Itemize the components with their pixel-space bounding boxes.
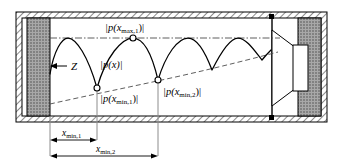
dim-2-arrow-right — [151, 154, 158, 159]
p-max-1-tail: )| — [139, 22, 145, 34]
marker-max-1 — [130, 35, 136, 41]
impedance-tube-figure: Z |p(xmax,1)| |p(x)| |p(xmin,1)| |p(xmin… — [0, 0, 343, 160]
svg-text:xmin,1: xmin,1 — [61, 128, 81, 139]
dim-1-arrow-right — [90, 138, 97, 143]
impedance-label: Z — [71, 60, 78, 72]
baffle-top-mount — [269, 14, 274, 19]
p-min-2-sub: min,2 — [179, 91, 196, 99]
dim-1-arrow-left — [50, 138, 57, 143]
dimension-x-min-1: xmin,1 — [50, 128, 97, 143]
marker-min-2 — [155, 77, 161, 83]
p-min-2-head: |p(x — [163, 86, 180, 98]
p-min-1-sub: min,1 — [116, 98, 133, 106]
dim-1-sub: min,1 — [66, 132, 81, 139]
dim-2-arrow-left — [50, 154, 57, 159]
dim-2-sub: min,2 — [100, 148, 115, 155]
marker-min-1 — [94, 85, 100, 91]
absorber-block — [27, 18, 50, 116]
baffle-bottom-mount — [269, 115, 274, 120]
label-p-of-x: |p(x)| — [100, 59, 123, 71]
p-max-1-head: |p(x — [105, 22, 122, 34]
p-min-2-tail: )| — [195, 86, 201, 98]
p-min-1-head: |p(x — [100, 93, 117, 105]
absorber-sample — [27, 18, 50, 116]
speaker-magnet — [293, 45, 308, 91]
figure-canvas: Z |p(xmax,1)| |p(x)| |p(xmin,1)| |p(xmin… — [0, 0, 343, 160]
p-min-1-tail: )| — [132, 93, 138, 105]
dimension-x-min-2: xmin,2 — [50, 144, 158, 159]
svg-text:xmin,2: xmin,2 — [95, 144, 115, 155]
p-of-x-text: |p(x)| — [100, 59, 123, 71]
p-max-1-sub: max,1 — [121, 27, 139, 35]
